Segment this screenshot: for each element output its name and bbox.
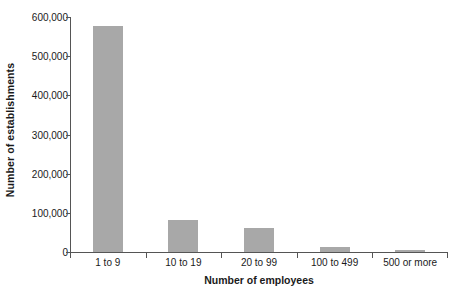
y-axis-tick-mark [66,95,71,96]
y-axis-title: Number of establishments [0,0,20,260]
x-axis-tick-labels: 1 to 910 to 1920 to 99100 to 499500 or m… [70,257,448,273]
y-axis-tick-label: 500,000 [20,51,68,62]
y-axis-tick-mark [66,213,71,214]
x-axis-tick-label: 500 or more [383,257,437,268]
bar [168,220,198,252]
x-axis-tick-label: 10 to 19 [165,257,201,268]
x-axis-tick-label: 100 to 499 [311,257,358,268]
x-axis-tick-label: 20 to 99 [241,257,277,268]
y-axis-tick-label: 300,000 [20,129,68,140]
y-axis-title-text: Number of establishments [4,63,16,197]
y-axis-tick-mark [66,174,71,175]
y-axis-tick-mark [66,135,71,136]
bar-chart-figure: Number of establishments 0100,000200,000… [0,0,452,294]
y-axis-tick-labels: 0100,000200,000300,000400,000500,000600,… [18,0,68,294]
x-axis-line [70,252,448,253]
y-axis-tick-label: 0 [20,247,68,258]
y-axis-tick-label: 400,000 [20,90,68,101]
bar [93,26,123,252]
x-axis-title: Number of employees [70,274,448,286]
plot-area [70,17,448,253]
bar [320,247,350,252]
bar [244,228,274,252]
bar [395,250,425,252]
y-axis-tick-mark [66,56,71,57]
y-axis-tick-mark [66,17,71,18]
x-axis-tick-label: 1 to 9 [95,257,120,268]
y-axis-tick-label: 200,000 [20,168,68,179]
y-axis-tick-label: 600,000 [20,12,68,23]
y-axis-tick-label: 100,000 [20,207,68,218]
